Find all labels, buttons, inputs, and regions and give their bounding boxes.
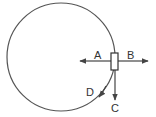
label-a: A xyxy=(94,49,102,61)
label-b: B xyxy=(127,49,134,61)
arrow-d xyxy=(99,86,106,97)
circular-motion-diagram: A B C D xyxy=(0,0,156,117)
label-c: C xyxy=(111,102,119,114)
label-d: D xyxy=(86,86,94,98)
moving-object xyxy=(111,53,118,70)
